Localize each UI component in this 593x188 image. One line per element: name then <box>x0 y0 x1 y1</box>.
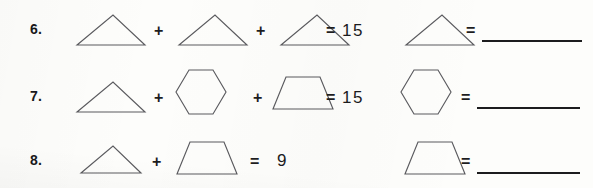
answer-equals-sign: = <box>466 23 475 39</box>
hexagon-shape <box>175 69 227 115</box>
plus-operator: + <box>154 23 163 39</box>
plus-operator: + <box>253 90 262 106</box>
triangle-shape <box>80 145 142 174</box>
answer-equals-sign: = <box>461 154 470 170</box>
problem-number: 7. <box>30 88 42 104</box>
problem-number: 6. <box>30 21 42 37</box>
problem-number: 8. <box>30 152 42 168</box>
answer-equals-sign: = <box>461 90 470 106</box>
triangle-shape <box>76 14 146 46</box>
worksheet-page: 6. + + = 15 = 7. <box>0 0 593 188</box>
answer-blank-line[interactable] <box>477 107 580 109</box>
triangle-shape <box>178 14 248 46</box>
problem-row: 6. + + = 15 = <box>0 0 593 64</box>
answer-blank-line[interactable] <box>482 40 582 42</box>
problem-row: 7. + + = 15 = <box>0 62 593 126</box>
equals-sign: = <box>326 90 335 106</box>
answer-prompt-shape <box>400 69 452 115</box>
equals-sign: = <box>326 23 335 39</box>
sum-value: 9 <box>277 152 286 169</box>
trapezoid-shape <box>272 76 334 110</box>
plus-operator: + <box>152 154 161 170</box>
sum-value: 15 <box>342 22 364 39</box>
sum-value: 15 <box>342 89 364 106</box>
answer-prompt-shape <box>404 141 466 175</box>
trapezoid-shape <box>176 141 238 175</box>
triangle-shape <box>280 14 350 46</box>
equals-sign: = <box>250 154 259 170</box>
plus-operator: + <box>154 90 163 106</box>
plus-operator: + <box>256 23 265 39</box>
answer-prompt-shape <box>405 14 475 46</box>
problem-row: 8. + = 9 = <box>0 124 593 188</box>
triangle-shape <box>76 81 146 113</box>
answer-blank-line[interactable] <box>477 172 580 174</box>
